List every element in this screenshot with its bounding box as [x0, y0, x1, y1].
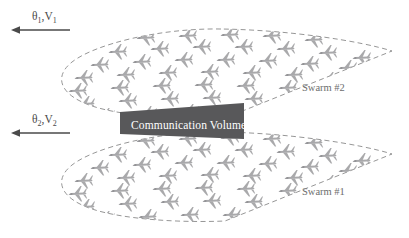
velocity-vector-2-label: θ2,V2 — [32, 113, 57, 128]
velocity-vector-2: θ2,V2 — [11, 113, 70, 137]
swarm-label-2: Swarm #2 — [302, 82, 345, 93]
arrow-left-head-icon — [11, 26, 20, 34]
velocity-vector-1: θ1,V1 — [11, 10, 70, 34]
communication-volume-label: Communication Volume — [131, 119, 246, 131]
swarm-label-1: Swarm #1 — [302, 186, 345, 197]
swarm-diagram-figure: Swarm #2 — [0, 0, 409, 238]
swarm-group-lower: Swarm #1 — [62, 130, 392, 227]
swarm-outline-lower — [62, 132, 392, 222]
velocity-vector-1-label: θ1,V1 — [32, 10, 57, 25]
arrow-left-head-icon — [11, 129, 20, 137]
diagram-canvas: Swarm #2 — [0, 0, 409, 238]
